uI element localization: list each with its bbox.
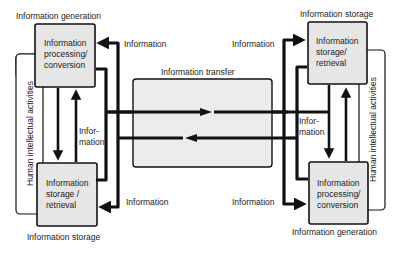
left-top-arrow-label: Information <box>124 39 167 49</box>
right-flow-label-2: mation <box>299 127 325 137</box>
right-bottom-caption: Information generation <box>292 227 377 237</box>
left-processing-line3: conversion <box>44 60 85 70</box>
right-processing-line2: processing/ <box>317 189 361 199</box>
transfer-title: Information transfer <box>161 67 235 77</box>
left-output-bracket <box>96 69 106 180</box>
right-bottom-arrow-label: Information <box>232 197 275 207</box>
right-storage-line3: retrieval <box>316 58 346 68</box>
left-top-caption: Information generation <box>16 11 101 21</box>
left-processing-line2: processing/ <box>44 49 88 59</box>
left-flow-label-1: Infor- <box>79 126 99 136</box>
left-human-activities-label: Human intellectual activities <box>25 81 35 186</box>
left-bottom-caption: Information storage <box>27 232 101 242</box>
left-storage-line1: Information <box>46 178 89 188</box>
left-storage-line3: retrieval <box>46 200 76 210</box>
left-flow-label-2: mation <box>79 137 105 147</box>
right-flow-label-1: Infor- <box>299 116 319 126</box>
right-human-activities-label: Human intellectual activities <box>368 77 378 182</box>
left-storage-line2: storage / <box>46 189 80 199</box>
right-top-caption: Information storage <box>300 9 374 19</box>
right-top-arrow-label: Information <box>232 39 275 49</box>
right-storage-line2: storage/ <box>316 47 347 57</box>
left-bottom-arrow-label: Information <box>126 197 169 207</box>
right-processing-line1: Information <box>317 178 360 188</box>
left-processing-line1: Information <box>44 38 87 48</box>
right-storage-line1: Information <box>316 36 359 46</box>
information-flow-diagram: Information generation Human intellectua… <box>0 0 398 253</box>
information-transfer-box <box>133 79 272 167</box>
right-processing-line3: conversion <box>317 200 358 210</box>
